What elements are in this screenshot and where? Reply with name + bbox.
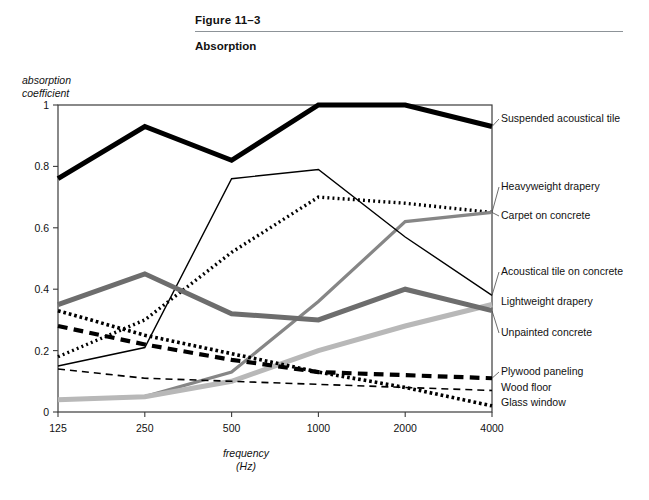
series-leader-lines [492, 119, 499, 378]
leader-line [492, 119, 499, 126]
series-label: Carpet on concrete [501, 209, 590, 221]
x-tick-label: 500 [223, 422, 241, 434]
leader-line [492, 212, 499, 216]
series-line [58, 105, 492, 179]
y-tick-label: 0.8 [34, 160, 49, 172]
x-tick-label: 125 [49, 422, 67, 434]
absorption-line-chart: 00.20.40.60.81 125250500100020004000 Sus… [0, 0, 649, 500]
chart-plot-area: 00.20.40.60.81 125250500100020004000 Sus… [0, 0, 649, 500]
series-line [58, 369, 492, 390]
y-tick-label: 0 [43, 406, 49, 418]
series-lines [58, 105, 492, 406]
series-label: Plywood paneling [501, 365, 583, 377]
x-tick-label: 1000 [307, 422, 331, 434]
leader-line [492, 311, 499, 333]
series-label: Acoustical tile on concrete [501, 265, 623, 277]
x-tick-label: 250 [136, 422, 154, 434]
y-tick-label: 0.2 [34, 345, 49, 357]
series-line [58, 197, 492, 357]
series-label: Glass window [501, 396, 566, 408]
x-tick-label: 2000 [394, 422, 418, 434]
series-label: Lightweight drapery [501, 295, 593, 307]
leader-line [492, 272, 499, 295]
series-label: Unpainted concrete [501, 326, 592, 338]
y-tick-label: 0.6 [34, 222, 49, 234]
series-label: Wood floor [501, 381, 552, 393]
series-label: Suspended acoustical tile [501, 112, 620, 124]
y-axis-ticks: 00.20.40.60.81 [34, 99, 58, 418]
leader-line [492, 187, 499, 212]
series-labels: Suspended acoustical tileHeavyweight dra… [501, 112, 623, 408]
x-tick-label: 4000 [480, 422, 504, 434]
series-line [58, 274, 492, 320]
x-axis-ticks: 125250500100020004000 [49, 412, 504, 434]
series-line [58, 212, 492, 399]
series-line [58, 311, 492, 406]
leader-line [492, 372, 499, 378]
y-tick-label: 0.4 [34, 283, 49, 295]
y-tick-label: 1 [43, 99, 49, 111]
series-label: Heavyweight drapery [501, 180, 600, 192]
